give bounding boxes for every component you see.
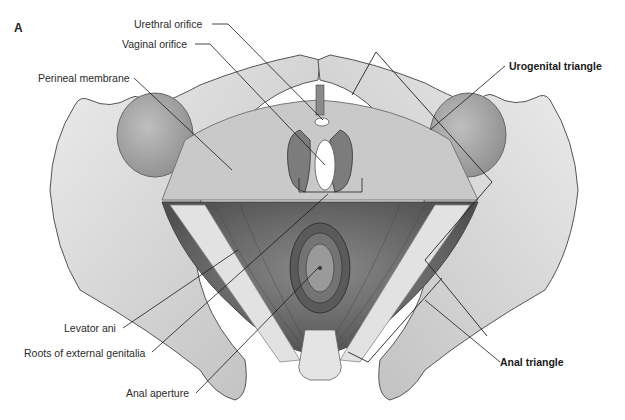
anal-sphincter: [290, 223, 350, 313]
label-levator-ani: Levator ani: [64, 322, 116, 334]
label-urethral-orifice: Urethral orifice: [134, 18, 202, 30]
label-perineal-membrane: Perineal membrane: [38, 72, 130, 84]
panel-letter: A: [14, 21, 23, 35]
label-urogenital-triangle: Urogenital triangle: [509, 60, 602, 72]
label-anal-aperture: Anal aperture: [126, 387, 189, 399]
label-vaginal-orifice: Vaginal orifice: [122, 38, 187, 50]
label-anal-triangle: Anal triangle: [500, 356, 564, 368]
coccyx: [299, 330, 342, 380]
perineum-anatomy-figure: A Urethral orifice Vaginal orifice Perin…: [0, 0, 625, 420]
label-roots-external-genitalia: Roots of external genitalia: [24, 347, 145, 359]
clitoris: [316, 85, 324, 115]
